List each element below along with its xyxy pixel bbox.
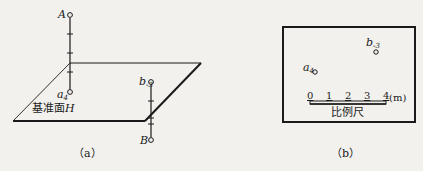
plan-point-b-3-marker	[374, 50, 378, 54]
point-A-marker	[68, 13, 73, 18]
plan-label-b-subscript: -3	[373, 42, 380, 50]
scale-tick-1: 1	[326, 91, 332, 101]
point-B-marker	[149, 138, 154, 143]
scale-tick-0: 0	[307, 91, 313, 101]
label-a-subscript: 4	[64, 94, 68, 102]
plane-label: 基准面H	[32, 103, 75, 114]
projection-line-b	[148, 80, 154, 143]
scale-tick-2: 2	[345, 91, 351, 101]
label-b-subscript: -3	[146, 81, 153, 89]
diagram-graphics	[0, 0, 423, 171]
point-a4-marker	[68, 90, 73, 95]
plane-label-text: 基准面	[32, 102, 65, 115]
scale-bar	[310, 101, 386, 104]
scale-label: 比例尺	[331, 107, 364, 118]
label-point-A: A	[58, 9, 66, 20]
plane-label-var: H	[65, 102, 75, 115]
label-point-b-3: b-3	[139, 76, 153, 89]
caption-b: （b）	[331, 148, 360, 159]
label-b-letter: b	[139, 75, 146, 88]
plan-label-a-subscript: 4	[310, 67, 314, 75]
scale-unit: (m)	[389, 93, 406, 103]
diagram-canvas: A a4 b-3 B 基准面H （a） a4 b-3 0 1 2 3 4 (m)…	[0, 0, 423, 171]
projection-line-a	[67, 13, 73, 95]
caption-a: （a）	[73, 148, 102, 159]
label-point-B: B	[140, 135, 148, 146]
plan-label-b-3: b-3	[366, 37, 380, 50]
scale-tick-3: 3	[364, 91, 370, 101]
plan-label-a4: a4	[303, 62, 314, 75]
label-point-a4: a4	[57, 89, 68, 102]
plan-label-b-letter: b	[366, 36, 373, 49]
